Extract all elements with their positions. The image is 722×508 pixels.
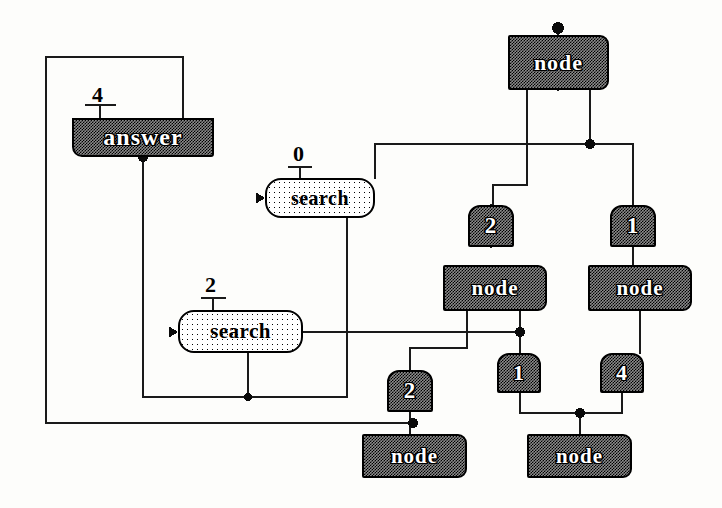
wire-path: [590, 90, 633, 205]
index-box-1-top[interactable]: 1: [610, 205, 656, 247]
index-box-2-top[interactable]: 2: [468, 205, 514, 247]
node-box-top-label: node: [534, 50, 583, 76]
index-box-4-middle[interactable]: 4: [600, 353, 644, 393]
operator-box-answer-label: answer: [103, 124, 182, 151]
wire-layer: [0, 0, 722, 508]
node-box-top[interactable]: node: [508, 35, 609, 90]
input-arrow-icon: [169, 326, 178, 337]
search-pill-bottom-label: search: [210, 319, 271, 344]
search-pill-top-label: search: [291, 187, 349, 210]
index-box-2-bottom-label: 2: [404, 378, 417, 404]
argument-label-4: 4: [92, 84, 103, 106]
node-box-bottom-left-label: node: [391, 444, 438, 469]
node-box-middle-left-label: node: [471, 276, 518, 301]
wire-junction-dot: [552, 22, 564, 34]
wire-path: [410, 311, 467, 370]
index-box-4-middle-label: 4: [616, 360, 628, 386]
wire-junction-dot: [244, 393, 252, 401]
wire-path: [520, 393, 580, 413]
wire-path: [493, 90, 527, 205]
index-box-2-top-label: 2: [485, 213, 498, 239]
argument-label-0: 0: [293, 143, 304, 165]
search-pill-bottom[interactable]: search: [178, 310, 303, 353]
search-pill-top[interactable]: search: [265, 178, 375, 218]
wire-junction-dot: [575, 408, 585, 418]
wire-junction-dot: [515, 327, 525, 337]
node-box-bottom-left[interactable]: node: [362, 434, 467, 478]
diagram-canvas: answer node node node node node 2 1 1 4 …: [0, 0, 722, 508]
node-box-middle-right-label: node: [616, 276, 663, 301]
node-box-bottom-right[interactable]: node: [527, 434, 632, 478]
index-box-1-top-label: 1: [627, 213, 640, 239]
index-box-1-middle[interactable]: 1: [497, 353, 541, 393]
node-box-middle-left[interactable]: node: [443, 265, 547, 311]
node-box-bottom-right-label: node: [556, 444, 603, 469]
input-arrow-icon: [256, 192, 265, 203]
wire-junction-dot: [585, 139, 595, 149]
node-box-middle-right[interactable]: node: [588, 265, 692, 311]
index-box-1-middle-label: 1: [513, 360, 525, 386]
wire-junction-dot: [408, 418, 418, 428]
wire-path: [375, 144, 590, 178]
argument-label-2: 2: [205, 274, 216, 296]
operator-box-answer[interactable]: answer: [72, 118, 214, 157]
index-box-2-bottom[interactable]: 2: [387, 370, 433, 412]
